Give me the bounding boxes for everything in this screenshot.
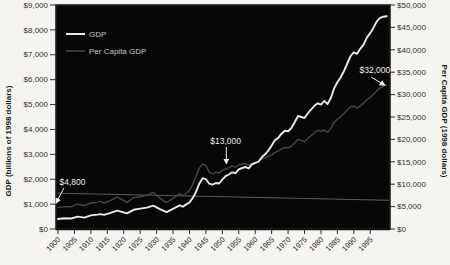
right-axis-tick-label: $5,000 [397,202,422,211]
right-axis-tick-label: $35,000 [397,68,426,77]
x-axis-tick-label: 1920 [110,235,128,253]
x-axis-tick-label: 1915 [94,235,112,253]
left-axis-tick-label: $4,000 [24,125,49,134]
left-axis-title: GDP (billions of 1998 dollars) [4,85,13,196]
left-axis-tick-label: $1,000 [24,200,49,209]
x-axis-tick-label: 1940 [176,235,194,253]
right-axis-tick-label: $50,000 [397,1,426,10]
left-axis-tick-label: $7,000 [24,50,49,59]
x-axis-tick-label: 1980 [307,235,325,253]
x-axis-tick-label: 1930 [143,235,161,253]
annotation-text: $4,800 [59,177,85,187]
left-axis-tick-label: $3,000 [24,150,49,159]
x-axis-tick-label: 1900 [44,235,62,253]
right-axis-tick-label: $40,000 [397,46,426,55]
x-axis-tick-label: 1960 [241,235,259,253]
x-axis-tick-label: 1945 [192,235,210,253]
left-axis-tick-label: $8,000 [24,26,49,35]
right-axis-tick-label: $25,000 [397,113,426,122]
legend-label-per-capita-gdp: Per Capita GDP [89,47,146,56]
x-axis-tick-label: 1965 [258,235,276,253]
x-axis-tick-label: 1970 [274,235,292,253]
chart-canvas: $0$1,000$2,000$3,000$4,000$5,000$6,000$7… [0,0,450,265]
x-axis-tick-label: 1905 [61,235,79,253]
x-axis-tick-label: 1995 [357,235,375,253]
x-axis-tick-label: 1985 [324,235,342,253]
right-axis-tick-label: $30,000 [397,90,426,99]
left-axis-tick-label: $9,000 [24,1,49,10]
x-axis-tick-label: 1950 [209,235,227,253]
left-axis-tick-label: $2,000 [24,175,49,184]
x-axis-tick-label: 1925 [126,235,144,253]
gdp-per-capita-figure: $0$1,000$2,000$3,000$4,000$5,000$6,000$7… [0,0,450,265]
legend-label-gdp: GDP [89,30,106,39]
x-axis-tick-label: 1955 [225,235,243,253]
right-axis-tick-label: $10,000 [397,180,426,189]
x-axis-tick-label: 1935 [159,235,177,253]
right-axis-tick-label: $20,000 [397,135,426,144]
annotation-text: $13,000 [210,136,241,146]
x-axis-tick-label: 1975 [291,235,309,253]
left-axis-tick-label: $0 [39,225,48,234]
left-axis-tick-label: $6,000 [24,75,49,84]
x-axis-tick-label: 1910 [77,235,95,253]
left-axis-tick-label: $5,000 [24,100,49,109]
right-axis-title: Per Capita GDP (1998 dollars) [440,65,449,178]
right-axis-tick-label: $0 [397,225,406,234]
right-axis-tick-label: $45,000 [397,23,426,32]
right-axis-tick-label: $15,000 [397,158,426,167]
x-axis-tick-label: 1990 [340,235,358,253]
annotation-text: $32,000 [360,65,391,75]
